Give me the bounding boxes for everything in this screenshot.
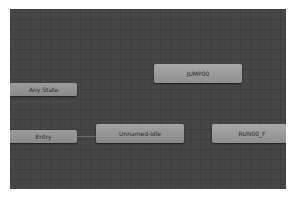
entry-label: Entry (36, 133, 52, 140)
state-machine-canvas[interactable]: Any State Entry Unnamed-idle JUMP00 RUN0… (10, 9, 286, 189)
jump00-state-node[interactable]: JUMP00 (154, 64, 242, 83)
transition-entry-to-idle[interactable] (77, 136, 96, 137)
any-state-node[interactable]: Any State (10, 83, 77, 96)
jump00-label: JUMP00 (187, 70, 210, 77)
any-state-label: Any State (29, 86, 58, 93)
unnamed-idle-label: Unnamed-idle (119, 130, 161, 137)
entry-node[interactable]: Entry (10, 130, 77, 143)
unnamed-idle-state-node[interactable]: Unnamed-idle (96, 124, 184, 143)
run00-f-label: RUN00_F (238, 130, 265, 137)
run00-f-state-node[interactable]: RUN00_F (212, 124, 286, 143)
